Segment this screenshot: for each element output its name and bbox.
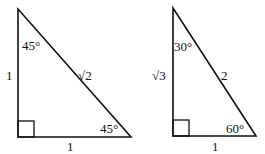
- base-label: 1: [67, 139, 74, 154]
- top-angle-label: 45°: [22, 38, 40, 53]
- bottom-right-angle-label: 60°: [226, 121, 244, 136]
- top-angle-label: 30°: [174, 39, 192, 54]
- triangle-45-45-90: 45° 1 √2 45° 1: [6, 9, 131, 154]
- right-angle-marker: [173, 120, 189, 136]
- triangle-outline: [173, 8, 256, 136]
- triangle-outline: [18, 9, 131, 137]
- vertical-side-label: √3: [152, 68, 166, 83]
- vertical-side-label: 1: [6, 68, 13, 83]
- hypotenuse-label: 2: [221, 68, 228, 83]
- bottom-right-angle-label: 45°: [100, 121, 118, 136]
- base-label: 1: [212, 139, 219, 154]
- special-right-triangles-diagram: 45° 1 √2 45° 1 30° √3 2 60° 1: [0, 0, 265, 154]
- triangle-30-60-90: 30° √3 2 60° 1: [152, 8, 256, 154]
- right-angle-marker: [18, 121, 34, 137]
- hypotenuse-label: √2: [78, 68, 92, 83]
